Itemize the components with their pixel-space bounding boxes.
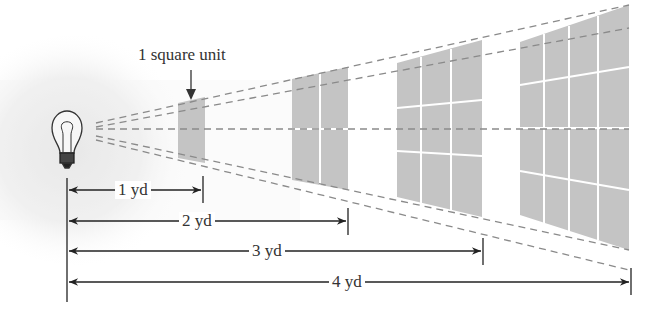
diagram-canvas — [0, 0, 649, 320]
dimension-label-4: 4 yd — [329, 273, 365, 291]
callout-label: 1 square unit — [135, 46, 229, 64]
panel-4x4 — [520, 5, 629, 250]
dimension-label-3: 3 yd — [249, 242, 285, 260]
light-glow — [0, 35, 300, 265]
dimension-label-2: 2 yd — [179, 212, 215, 230]
inverse-square-diagram: 1 square unit 1 yd 2 yd 3 yd 4 yd — [0, 0, 649, 320]
panel-1x1 — [178, 97, 205, 163]
dimension-label-1: 1 yd — [115, 181, 151, 199]
